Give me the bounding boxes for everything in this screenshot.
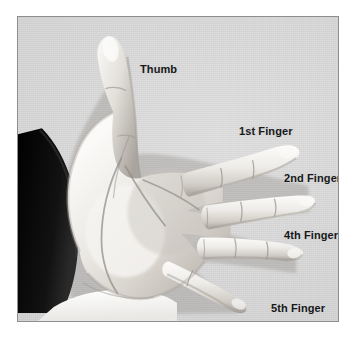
label-2nd-finger: 2nd Finger (284, 172, 339, 184)
figure-root: Thumb 1st Finger 2nd Finger 4th Finger 5… (0, 0, 355, 340)
image-panel: Thumb 1st Finger 2nd Finger 4th Finger 5… (17, 16, 339, 322)
finger-2-nail (299, 195, 315, 206)
label-5th-finger: 5th Finger (271, 302, 325, 314)
label-thumb: Thumb (140, 63, 177, 75)
hand-group (18, 35, 315, 321)
finger-4-ring (197, 238, 303, 261)
label-1st-finger: 1st Finger (239, 125, 293, 137)
hand-illustration (18, 17, 338, 321)
label-4th-finger: 4th Finger (284, 229, 338, 241)
